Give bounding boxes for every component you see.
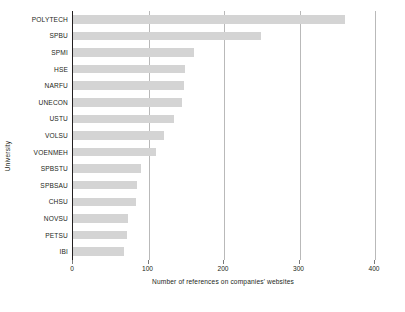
bar-row xyxy=(73,94,375,111)
bar-row xyxy=(73,61,375,78)
y-tick-label-spbsau: SPBSAU xyxy=(10,177,68,194)
y-tick-label-narfu: NARFU xyxy=(10,77,68,94)
bar-ibi xyxy=(73,247,124,256)
y-tick-label-hse: HSE xyxy=(10,61,68,78)
bar-series xyxy=(73,11,375,260)
bar-row xyxy=(73,77,375,94)
y-tick-label-ustu: USTU xyxy=(10,111,68,128)
bar-row xyxy=(73,160,375,177)
bar-chsu xyxy=(73,198,136,207)
y-tick-label-ibi: IBI xyxy=(10,243,68,260)
y-tick-label-unecon: UNECON xyxy=(10,94,68,111)
bar-petsu xyxy=(73,231,127,240)
y-tick-label-spmi: SPMI xyxy=(10,44,68,61)
x-tick-100 xyxy=(148,260,149,264)
bar-spbsau xyxy=(73,181,137,190)
y-tick-label-spbstu: SPBSTU xyxy=(10,160,68,177)
bar-row xyxy=(73,194,375,211)
x-tick-label-200: 200 xyxy=(217,265,228,272)
y-tick-label-polytech: POLYTECH xyxy=(10,11,68,28)
bar-row xyxy=(73,243,375,260)
bar-unecon xyxy=(73,98,182,107)
y-tick-label-petsu: PETSU xyxy=(10,227,68,244)
bar-spbu xyxy=(73,32,261,41)
bar-row xyxy=(73,210,375,227)
bar-row xyxy=(73,127,375,144)
bar-row xyxy=(73,11,375,28)
bar-chart-figure: University POLYTECHSPBUSPMIHSENARFUUNECO… xyxy=(0,0,405,312)
x-tick-label-300: 300 xyxy=(293,265,304,272)
x-tick-label-100: 100 xyxy=(142,265,153,272)
bar-row xyxy=(73,44,375,61)
bar-spbstu xyxy=(73,164,141,173)
bar-polytech xyxy=(73,15,345,24)
bar-narfu xyxy=(73,81,184,90)
x-tick-300 xyxy=(299,260,300,264)
bar-volsu xyxy=(73,131,164,140)
x-tick-label-0: 0 xyxy=(70,265,74,272)
y-tick-label-voenmeh: VOENMEH xyxy=(10,144,68,161)
bar-row xyxy=(73,177,375,194)
bar-row xyxy=(73,28,375,45)
plot-area xyxy=(72,11,375,260)
x-tick-label-400: 400 xyxy=(368,265,379,272)
bar-novsu xyxy=(73,214,128,223)
bar-ustu xyxy=(73,115,174,124)
bar-row xyxy=(73,144,375,161)
x-tick-200 xyxy=(223,260,224,264)
bar-voenmeh xyxy=(73,148,156,157)
x-tick-400 xyxy=(374,260,375,264)
bar-hse xyxy=(73,65,185,74)
y-tick-label-chsu: CHSU xyxy=(10,194,68,211)
y-tick-label-spbu: SPBU xyxy=(10,28,68,45)
y-tick-label-volsu: VOLSU xyxy=(10,127,68,144)
x-axis-title: Number of references on companies' websi… xyxy=(72,278,374,285)
x-tick-0 xyxy=(72,260,73,264)
bar-row xyxy=(73,227,375,244)
bar-spmi xyxy=(73,48,194,57)
y-tick-label-novsu: NOVSU xyxy=(10,210,68,227)
bar-row xyxy=(73,111,375,128)
gridline-400 xyxy=(375,11,376,260)
y-axis-tick-labels: POLYTECHSPBUSPMIHSENARFUUNECONUSTUVOLSUV… xyxy=(10,11,68,260)
